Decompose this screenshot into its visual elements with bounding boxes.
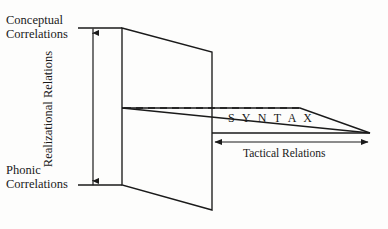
- label-phonic-correlations: Phonic Correlations: [6, 163, 68, 191]
- label-phonic-line1: Phonic: [6, 163, 68, 177]
- label-syntax: S Y N T A X: [228, 112, 314, 125]
- label-conceptual-line2: Correlations: [6, 27, 68, 41]
- vertical-plane-outline: [122, 28, 212, 210]
- label-phonic-line2: Correlations: [6, 177, 68, 191]
- label-conceptual-line1: Conceptual: [6, 13, 68, 27]
- label-conceptual-correlations: Conceptual Correlations: [6, 13, 68, 41]
- label-tactical-relations: Tactical Relations: [243, 147, 326, 160]
- diagram-canvas: Conceptual Correlations Phonic Correlati…: [0, 0, 388, 229]
- label-realizational-relations: Realizational Relations: [41, 34, 55, 184]
